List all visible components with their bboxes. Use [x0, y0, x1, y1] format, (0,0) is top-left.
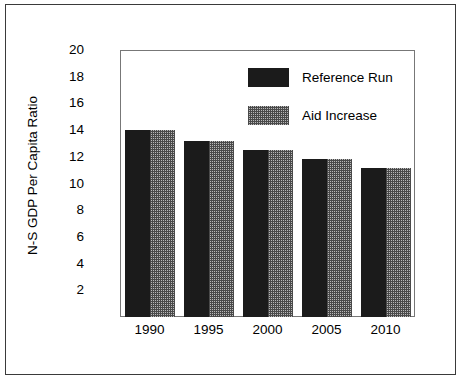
y-axis-tick-label: 12	[56, 148, 84, 166]
y-axis-tick-label: 18	[56, 68, 84, 86]
bar-group	[125, 50, 175, 317]
bar-group	[243, 50, 293, 317]
chart-figure: N-S GDP Per Capita Ratio 246810121416182…	[0, 0, 462, 380]
y-axis-tick-label: 2	[56, 281, 84, 299]
x-axis-tick-label: 2000	[238, 322, 298, 337]
bars-layer	[120, 50, 415, 317]
y-axis-tick-label: 16	[56, 94, 84, 112]
solid-black-swatch	[248, 68, 289, 87]
y-axis-tick-label: 6	[56, 228, 84, 246]
bar-2010-reference-run	[361, 168, 386, 317]
bar-1990-reference-run	[125, 130, 150, 317]
x-axis-tick-label: 1990	[120, 322, 180, 337]
bar-2005-aid-increase	[327, 159, 352, 317]
bar-group	[184, 50, 234, 317]
bar-group	[302, 50, 352, 317]
legend-item-label: Reference Run	[302, 66, 393, 89]
y-axis-tick-label: 10	[56, 175, 84, 193]
bar-1990-aid-increase	[150, 130, 175, 317]
bar-2005-reference-run	[302, 159, 327, 317]
bar-2000-reference-run	[243, 150, 268, 317]
bar-1995-aid-increase	[209, 141, 234, 317]
y-axis-label: N-S GDP Per Capita Ratio	[25, 76, 40, 276]
y-axis-tick-label: 8	[56, 201, 84, 219]
bar-1995-reference-run	[184, 141, 209, 317]
y-axis-tick-label: 20	[56, 41, 84, 59]
legend-item-label: Aid Increase	[302, 104, 377, 127]
y-axis-tick-label: 14	[56, 121, 84, 139]
bar-2000-aid-increase	[268, 150, 293, 317]
bar-group	[361, 50, 411, 317]
bar-2010-aid-increase	[386, 168, 411, 317]
y-axis-tick-label: 4	[56, 255, 84, 273]
x-axis-tick-label: 2010	[356, 322, 416, 337]
x-axis-tick-label: 1995	[179, 322, 239, 337]
x-axis-tick-label: 2005	[297, 322, 357, 337]
checkered-gray-swatch	[248, 106, 289, 125]
